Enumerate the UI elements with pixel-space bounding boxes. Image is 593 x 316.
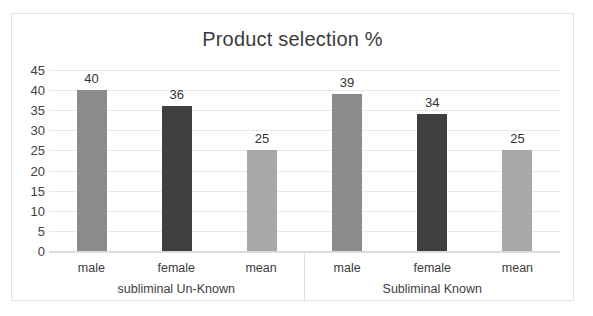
category-label-male: male bbox=[49, 256, 134, 280]
chart-title: Product selection % bbox=[12, 28, 573, 51]
bar-value-label: 25 bbox=[255, 132, 269, 145]
bar[interactable] bbox=[247, 150, 277, 251]
category-label-female: female bbox=[390, 256, 475, 280]
gridline-25 bbox=[49, 150, 560, 151]
category-label-mean: mean bbox=[219, 256, 304, 280]
category-label-male: male bbox=[305, 256, 390, 280]
category-group-label: Subliminal Known bbox=[305, 280, 561, 298]
category-item-row: malefemalemean bbox=[305, 256, 561, 280]
category-item-row: malefemalemean bbox=[49, 256, 304, 280]
gridline-15 bbox=[49, 191, 560, 192]
category-axis-band: malefemalemeansubliminal Un-Knownmalefem… bbox=[49, 252, 560, 302]
bar-value-label: 36 bbox=[170, 88, 184, 101]
category-group-label: subliminal Un-Known bbox=[49, 280, 304, 298]
gridline-45 bbox=[49, 70, 560, 71]
category-group: malefemalemeansubliminal Un-Known bbox=[49, 253, 305, 302]
gridline-40 bbox=[49, 90, 560, 91]
y-tick-label-25: 25 bbox=[12, 144, 45, 157]
bar[interactable] bbox=[332, 94, 362, 251]
y-tick-label-15: 15 bbox=[12, 184, 45, 197]
y-tick-label-30: 30 bbox=[12, 124, 45, 137]
bar-value-label: 40 bbox=[84, 72, 98, 85]
y-tick-label-40: 40 bbox=[12, 84, 45, 97]
gridline-30 bbox=[49, 130, 560, 131]
bar[interactable] bbox=[162, 106, 192, 251]
bar[interactable] bbox=[502, 150, 532, 251]
y-tick-label-5: 5 bbox=[12, 224, 45, 237]
gridline-35 bbox=[49, 110, 560, 111]
gridline-10 bbox=[49, 211, 560, 212]
y-tick-label-35: 35 bbox=[12, 104, 45, 117]
category-label-female: female bbox=[134, 256, 219, 280]
y-tick-label-0: 0 bbox=[12, 245, 45, 258]
chart-container: Product selection % 454035302520151050 4… bbox=[11, 13, 574, 301]
bar[interactable] bbox=[77, 90, 107, 251]
gridline-20 bbox=[49, 171, 560, 172]
plot-area: 403625393425 bbox=[49, 70, 560, 251]
y-tick-label-20: 20 bbox=[12, 164, 45, 177]
bar-value-label: 34 bbox=[425, 96, 439, 109]
gridline-5 bbox=[49, 231, 560, 232]
bar-value-label: 25 bbox=[510, 132, 524, 145]
y-tick-label-10: 10 bbox=[12, 204, 45, 217]
bar-value-label: 39 bbox=[340, 76, 354, 89]
bar[interactable] bbox=[417, 114, 447, 251]
category-label-mean: mean bbox=[475, 256, 560, 280]
y-axis: 454035302520151050 bbox=[12, 70, 45, 251]
category-group: malefemalemeanSubliminal Known bbox=[305, 253, 561, 302]
y-tick-label-45: 45 bbox=[12, 64, 45, 77]
